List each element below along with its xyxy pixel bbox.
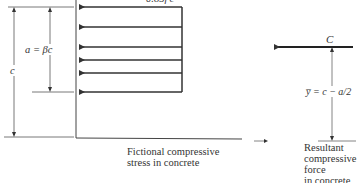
depth-a-label: a = βc — [24, 44, 53, 55]
stress-arrows — [80, 7, 182, 92]
stress-block-label: 0.85f′c — [146, 0, 174, 4]
depth-c-label: c — [10, 65, 15, 76]
stress-caption: Fictional compressive stress in concrete — [127, 146, 219, 168]
lever-arm-label: y̅ = c − a/2 — [306, 86, 351, 97]
force-label: C — [326, 34, 333, 45]
neutral-axis-line — [76, 138, 242, 139]
force-caption: Resultant compressive force in concrete — [304, 142, 357, 183]
